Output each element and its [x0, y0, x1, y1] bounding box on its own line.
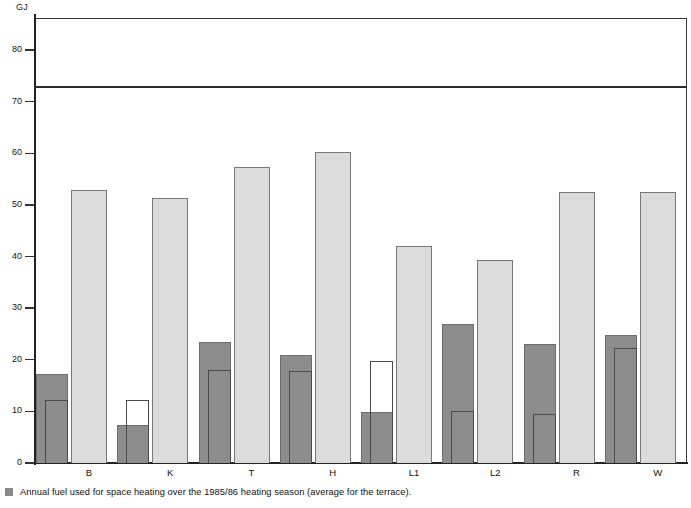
- y-tick-10: [25, 411, 34, 412]
- y-tick-60: [25, 153, 34, 154]
- y-tick-30: [25, 307, 34, 308]
- bar-inner-L2: [451, 411, 474, 463]
- reference-line: [34, 86, 687, 88]
- y-tick-40: [25, 256, 34, 257]
- bar-inner-H: [289, 371, 312, 463]
- x-label-K: K: [167, 467, 173, 478]
- bar-light-L1: [396, 246, 432, 463]
- bar-light-K: [152, 198, 188, 463]
- x-label-L1: L1: [409, 467, 420, 478]
- y-tick-label-70: 70: [0, 97, 22, 106]
- bar-inner-B: [45, 400, 68, 463]
- bar-light-H: [315, 152, 351, 463]
- bar-inner-W: [614, 348, 637, 463]
- y-tick-label-30: 30: [0, 303, 22, 312]
- bar-light-R: [559, 192, 595, 463]
- bar-light-B: [71, 190, 107, 463]
- y-tick-label-0: 0: [0, 458, 22, 467]
- bar-light-L2: [477, 260, 513, 463]
- y-tick-label-60: 60: [0, 148, 22, 157]
- x-label-B: B: [86, 467, 92, 478]
- bar-light-W: [640, 192, 676, 463]
- x-label-T: T: [249, 467, 255, 478]
- x-label-H: H: [329, 467, 336, 478]
- y-tick-80: [25, 49, 34, 50]
- y-tick-label-20: 20: [0, 355, 22, 364]
- chart-root: GJ 01020304050607080 BKTHL1L2RW Annual f…: [0, 0, 691, 508]
- x-label-R: R: [573, 467, 580, 478]
- y-tick-label-10: 10: [0, 406, 22, 415]
- y-tick-label-40: 40: [0, 252, 22, 261]
- legend-swatch-icon: [5, 488, 13, 496]
- chart-legend: Annual fuel used for space heating over …: [5, 487, 411, 497]
- y-tick-50: [25, 204, 34, 205]
- y-axis-unit-label: GJ: [16, 2, 28, 12]
- y-tick-label-50: 50: [0, 200, 22, 209]
- x-label-L2: L2: [490, 467, 501, 478]
- y-tick-20: [25, 359, 34, 360]
- x-label-W: W: [653, 467, 662, 478]
- bar-inner-K: [126, 400, 149, 463]
- bar-inner-L1: [370, 361, 393, 463]
- legend-label: Annual fuel used for space heating over …: [20, 487, 411, 497]
- bar-inner-T: [208, 370, 231, 463]
- bar-inner-R: [533, 414, 556, 463]
- y-tick-0: [25, 462, 34, 463]
- bar-light-T: [234, 167, 270, 463]
- y-tick-label-80: 80: [0, 45, 22, 54]
- y-tick-70: [25, 101, 34, 102]
